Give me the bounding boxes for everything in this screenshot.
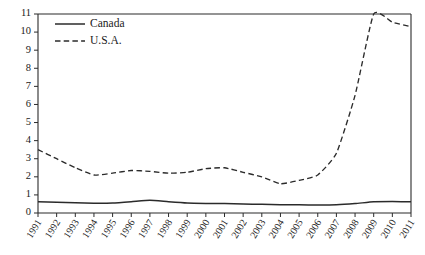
x-tick-label: 2011 xyxy=(397,217,417,239)
y-axis-group: 01234567891011 xyxy=(21,7,39,217)
x-tick-label: 1997 xyxy=(136,217,156,240)
x-tick-label: 2010 xyxy=(378,217,398,240)
chart-container: 01234567891011 1991199219931994199519961… xyxy=(0,0,425,255)
x-tick-label: 1993 xyxy=(61,217,81,240)
y-tick-label: 10 xyxy=(21,25,32,36)
y-tick-label: 8 xyxy=(26,62,31,73)
x-tick-label: 1995 xyxy=(98,217,118,240)
y-tick-label: 2 xyxy=(26,170,31,181)
x-tick-label: 2007 xyxy=(322,217,342,240)
x-axis-group: 1991199219931994199519961997199819992000… xyxy=(24,213,417,240)
x-tick-label: 2003 xyxy=(248,217,268,240)
legend-label-canada: Canada xyxy=(90,17,124,29)
y-tick-group: 01234567891011 xyxy=(21,7,39,217)
x-tick-group: 1991199219931994199519961997199819992000… xyxy=(24,213,417,240)
x-tick-label: 2000 xyxy=(192,217,212,240)
y-tick-label: 5 xyxy=(26,116,31,127)
x-tick-label: 1992 xyxy=(42,217,62,240)
chart-legend: CanadaU.S.A. xyxy=(55,17,124,46)
x-tick-label: 2005 xyxy=(285,217,305,240)
y-tick-label: 0 xyxy=(26,206,31,217)
y-tick-label: 3 xyxy=(26,152,31,163)
series-line-canada xyxy=(38,200,411,205)
y-tick-label: 9 xyxy=(26,44,31,55)
x-tick-label: 2001 xyxy=(210,217,230,240)
x-tick-label: 2006 xyxy=(304,217,324,240)
x-tick-label: 2004 xyxy=(266,217,286,240)
legend-label-usa: U.S.A. xyxy=(90,34,122,46)
line-chart: 01234567891011 1991199219931994199519961… xyxy=(0,0,425,255)
x-tick-label: 2008 xyxy=(341,217,361,240)
y-tick-label: 11 xyxy=(21,7,31,18)
y-tick-label: 7 xyxy=(26,80,31,91)
x-tick-label: 1991 xyxy=(24,217,44,240)
x-tick-label: 2009 xyxy=(359,217,379,240)
y-tick-label: 4 xyxy=(26,134,32,145)
x-tick-label: 1994 xyxy=(80,217,100,240)
x-tick-label: 1996 xyxy=(117,217,137,240)
x-tick-label: 2002 xyxy=(229,217,249,240)
x-tick-label: 1998 xyxy=(154,217,174,240)
y-tick-label: 1 xyxy=(26,188,31,199)
y-tick-label: 6 xyxy=(26,98,31,109)
x-tick-label: 1999 xyxy=(173,217,193,240)
